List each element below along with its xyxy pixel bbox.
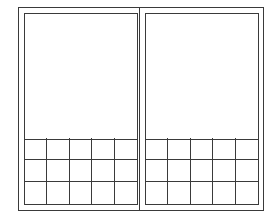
right-panel-upper-area [146, 14, 258, 140]
grid-cell [115, 138, 137, 160]
right-panel [145, 13, 259, 205]
center-divider [139, 7, 140, 211]
grid-cell [191, 182, 213, 204]
grid-cell [146, 160, 168, 182]
grid-cell [92, 138, 114, 160]
grid-cell [236, 182, 258, 204]
left-panel-upper-area [25, 14, 137, 140]
grid-cell [70, 138, 92, 160]
grid-cell [47, 182, 69, 204]
grid-cell [47, 138, 69, 160]
grid-cell [70, 182, 92, 204]
grid-cell [191, 160, 213, 182]
grid-cell [146, 182, 168, 204]
grid-cell [25, 160, 47, 182]
grid-cell [236, 160, 258, 182]
left-panel [24, 13, 138, 205]
grid-cell [168, 160, 190, 182]
grid-cell [213, 182, 235, 204]
grid-cell [115, 160, 137, 182]
grid-cell [213, 138, 235, 160]
grid-cell [191, 138, 213, 160]
grid-cell [47, 160, 69, 182]
right-panel-grid [146, 138, 258, 204]
grid-cell [92, 182, 114, 204]
grid-cell [25, 182, 47, 204]
grid-cell [115, 182, 137, 204]
grid-cell [70, 160, 92, 182]
grid-cell [146, 138, 168, 160]
grid-cell [168, 138, 190, 160]
grid-cell [92, 160, 114, 182]
grid-cell [236, 138, 258, 160]
grid-cell [213, 160, 235, 182]
grid-cell [25, 138, 47, 160]
grid-cell [168, 182, 190, 204]
left-panel-grid [25, 138, 137, 204]
